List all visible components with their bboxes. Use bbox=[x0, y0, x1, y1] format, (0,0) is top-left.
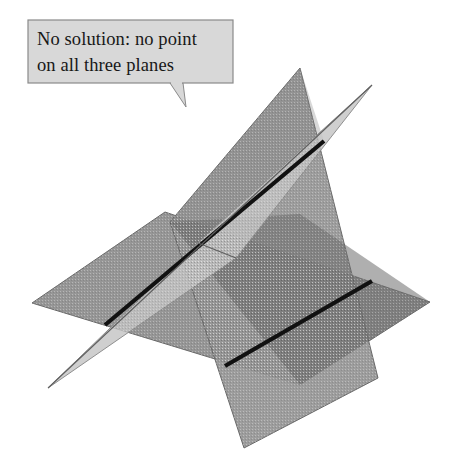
callout-tail bbox=[170, 83, 186, 107]
three-planes-figure: No solution: no point on all three plane… bbox=[0, 0, 461, 466]
planes-diagram bbox=[0, 0, 461, 466]
texture-overlay-vertical bbox=[170, 68, 378, 448]
callout-box bbox=[28, 20, 233, 83]
